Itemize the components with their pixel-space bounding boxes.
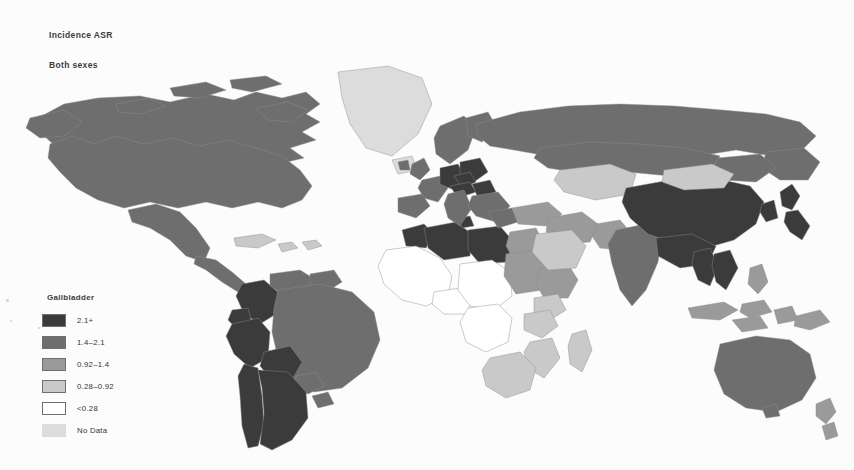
legend-swatch-highest xyxy=(42,314,66,327)
legend-title: Gallbladder xyxy=(47,293,172,302)
legend-label: <0.28 xyxy=(77,404,98,413)
legend-row: <0.28 xyxy=(42,401,172,415)
map-region-madagascar xyxy=(568,330,592,372)
map-region-canada xyxy=(170,82,226,98)
legend-label: 0.92–1.4 xyxy=(77,360,109,369)
map-region-indonesia xyxy=(774,306,798,324)
map-region-japan xyxy=(784,210,810,240)
scan-speckle xyxy=(10,320,12,322)
legend-row: 0.92–1.4 xyxy=(42,357,172,371)
map-region-uruguay xyxy=(312,392,334,408)
legend-swatch-no-data xyxy=(42,424,66,437)
legend-swatch-lowest xyxy=(42,402,66,415)
map-region-indonesia xyxy=(688,302,738,320)
scan-speckle xyxy=(6,299,9,302)
map-region-indonesia xyxy=(740,300,772,318)
map-region-new-zealand xyxy=(816,398,836,424)
legend-swatch-low xyxy=(42,380,66,393)
map-region-caribbean xyxy=(278,242,298,252)
legend-label: No Data xyxy=(77,426,107,435)
map-region-greenland xyxy=(338,66,432,156)
map-region-papua-new-guinea xyxy=(794,310,830,330)
legend-row: 1.4–2.1 xyxy=(42,335,172,349)
map-region-caribbean xyxy=(302,240,322,250)
map-region-caribbean xyxy=(234,234,276,248)
map-region-canada xyxy=(230,76,282,92)
legend-label: 2.1+ xyxy=(77,316,93,325)
map-region-mexico xyxy=(128,204,210,262)
legend-label: 1.4–2.1 xyxy=(77,338,105,347)
map-region-central-africa xyxy=(460,304,512,352)
chart-title-incidence: Incidence ASR xyxy=(49,30,113,40)
legend-row: 0.28–0.92 xyxy=(42,379,172,393)
map-region-united-kingdom xyxy=(398,160,410,170)
legend-swatch-high xyxy=(42,336,66,349)
legend-label: 0.28–0.92 xyxy=(77,382,114,391)
legend-row: 2.1+ xyxy=(42,313,172,327)
map-region-central-america xyxy=(194,256,246,292)
map-region-indonesia xyxy=(732,316,768,332)
map-region-new-zealand xyxy=(822,422,838,440)
map-region-australia xyxy=(714,336,816,412)
map-legend: Gallbladder 2.1+1.4–2.10.92–1.40.28–0.92… xyxy=(42,293,172,445)
legend-rows: 2.1+1.4–2.10.92–1.40.28–0.92<0.28No Data xyxy=(42,313,172,437)
map-region-japan xyxy=(780,184,800,210)
map-region-vietnam xyxy=(712,250,738,290)
world-map-figure: Incidence ASR Both sexes Gallbladder 2.1… xyxy=(0,0,854,470)
map-region-kazakhstan xyxy=(554,164,636,200)
legend-swatch-medium xyxy=(42,358,66,371)
legend-row: No Data xyxy=(42,423,172,437)
map-region-philippines xyxy=(748,264,768,294)
